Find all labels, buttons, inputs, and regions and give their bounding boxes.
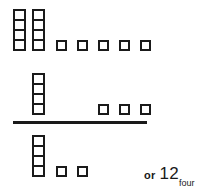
unit-square <box>77 40 88 51</box>
base-four-annotation: or12four <box>144 165 194 185</box>
unit-square <box>119 104 130 115</box>
base-four-diagram: or12four <box>0 0 211 187</box>
annotation-numeral: 12 <box>159 164 179 183</box>
unit-square <box>140 40 151 51</box>
annotation-prefix: or <box>144 169 155 181</box>
unit-square <box>98 40 109 51</box>
unit-square <box>32 165 45 177</box>
unit-square <box>32 103 45 115</box>
unit-square <box>56 40 67 51</box>
unit-square <box>56 166 67 177</box>
annotation-subscript: four <box>179 178 195 187</box>
unit-square <box>140 104 151 115</box>
unit-square <box>32 39 45 51</box>
unit-square <box>13 39 26 51</box>
unit-square <box>98 104 109 115</box>
unit-square <box>77 166 88 177</box>
sum-separator-rule <box>13 121 147 124</box>
unit-square <box>119 40 130 51</box>
